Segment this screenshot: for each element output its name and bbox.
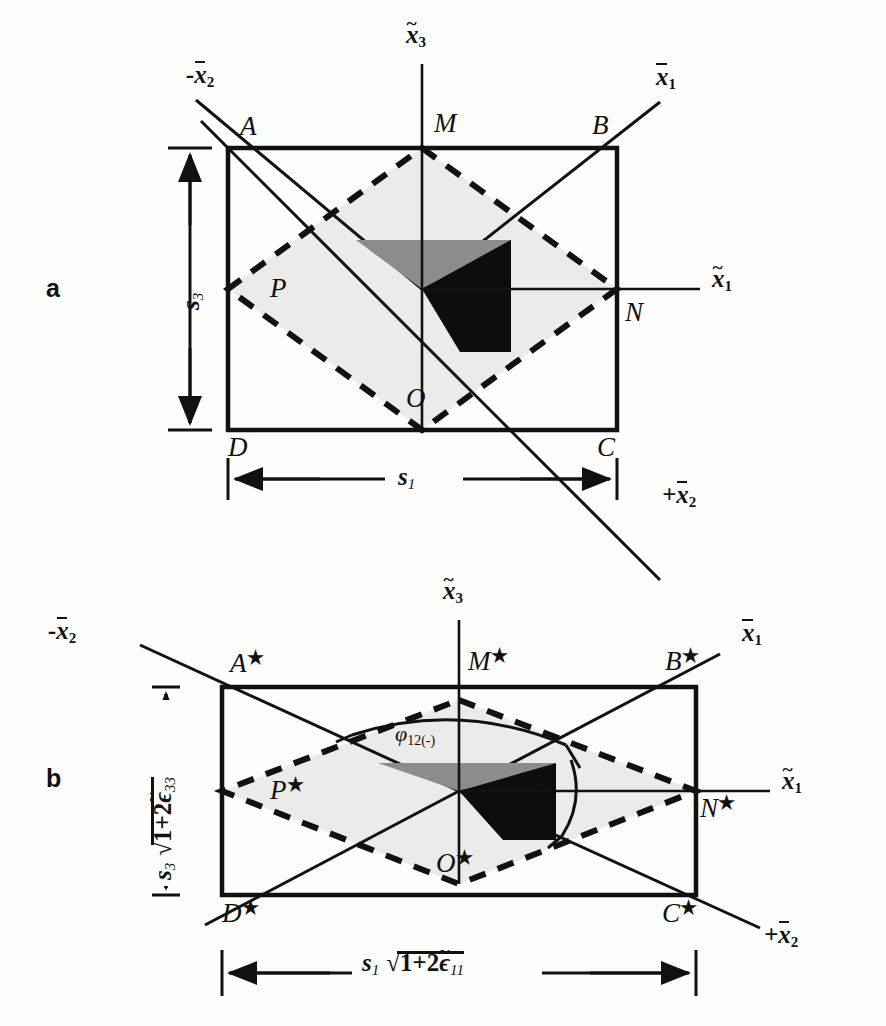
- panel-b-axis-label-pos-x2: +x2: [764, 922, 798, 950]
- panel-b-point-B-star: B★: [665, 646, 699, 675]
- panel-a-point-D: D: [228, 434, 248, 461]
- star-glyph-B: ★: [682, 645, 699, 666]
- x-base-b3: x: [742, 619, 755, 646]
- panel-a-letter: a: [46, 276, 60, 301]
- panel-a-dim-h-label-mask: [385, 462, 463, 496]
- s-base-a1: s: [177, 300, 204, 310]
- point-B-base: B: [665, 646, 682, 676]
- star-glyph-C: ★: [680, 897, 697, 918]
- sub-1-a1: 1: [669, 76, 677, 92]
- sub-2-a2: 2: [689, 494, 697, 510]
- panel-b-letter: b: [46, 766, 61, 791]
- x-base-a3: x: [656, 63, 669, 90]
- sub-2-b1: 2: [69, 630, 77, 646]
- sub-12: 12: [535, 774, 550, 788]
- panel-a-graphics: [168, 64, 700, 580]
- sub-33: 33: [162, 777, 178, 792]
- sub-3-a2: 3: [190, 293, 206, 301]
- panel-a-axis-label-neg-x2: -x2: [186, 62, 214, 90]
- panel-b-point-D-star: D★: [222, 898, 259, 927]
- panel-a-axis-label-x1-bar: x1: [656, 64, 676, 92]
- panel-a-axis-label-x1-tilde: ~x1: [712, 266, 732, 294]
- star-glyph-O: ★: [456, 847, 473, 868]
- panel-b-axis-label-neg-x2: -x2: [48, 618, 76, 646]
- s-base-b1: s: [149, 870, 176, 880]
- point-N-base: N: [700, 793, 718, 823]
- star-glyph-A: ★: [247, 647, 264, 668]
- star-glyph-N: ★: [718, 792, 735, 813]
- panel-a-point-A: A: [240, 113, 257, 140]
- panel-b-point-M-star: M★: [468, 646, 508, 675]
- point-D-base: D: [222, 898, 242, 928]
- panel-b-dim-horizontal-label: s1 √1+2~ϵ11: [362, 950, 464, 978]
- panel-a-point-O: O: [406, 385, 426, 412]
- panel-a-dim-vertical-label: s3: [178, 293, 206, 310]
- panel-b-point-O-star: O★: [436, 848, 473, 877]
- panel-a-point-P: P: [270, 275, 287, 302]
- panel-b-axis-label-x3-tilde: ~x3: [443, 578, 463, 606]
- panel-b-axis-label-x1-bar: x1: [742, 620, 762, 648]
- point-M-base: M: [468, 646, 491, 676]
- panel-a-point-B: B: [592, 112, 609, 139]
- sub-1-b1: 1: [755, 632, 763, 648]
- sub-3-b1: 3: [456, 590, 464, 606]
- s-base-b2: s: [362, 949, 372, 976]
- sub-1-b3: 1: [372, 962, 380, 978]
- point-A-base: A: [230, 648, 247, 678]
- sub-2-b2: 2: [791, 934, 799, 950]
- star-glyph-M: ★: [491, 645, 508, 666]
- plus-sign-a: +: [662, 481, 676, 508]
- panel-a-axis-label-x3-tilde: ~x3: [406, 22, 426, 50]
- phi-glyph-1: φ: [395, 721, 407, 746]
- panel-a-point-N: N: [625, 299, 643, 326]
- sub-12-minus: 12(-): [407, 733, 435, 748]
- panel-a-point-C: C: [597, 434, 615, 461]
- panel-b-point-N-star: N★: [700, 793, 735, 822]
- panel-a-dim-horizontal-label: s1: [398, 464, 415, 492]
- sub-11: 11: [450, 962, 464, 978]
- x-base-a5: x: [676, 481, 689, 508]
- x-base-b5: x: [778, 921, 791, 948]
- x-base-a1: x: [194, 61, 207, 88]
- panel-b-point-P-star: P★: [270, 775, 304, 804]
- panel-b-point-C-star: C★: [662, 898, 697, 927]
- panel-a-point-M: M: [434, 110, 457, 137]
- panel-b-axis-label-x1-tilde: ~x1: [782, 768, 802, 796]
- sub-1-a2: 1: [725, 278, 733, 294]
- panel-a-axis-label-pos-x2: +x2: [662, 482, 696, 510]
- sub-2-a1: 2: [207, 74, 215, 90]
- panel-b-point-A-star: A★: [230, 648, 264, 677]
- phi-glyph-2: φ: [523, 788, 548, 800]
- plus-sign-b: +: [764, 921, 778, 948]
- sub-1-b2: 1: [795, 780, 803, 796]
- point-C-base: C: [662, 898, 680, 928]
- s-base-a2: s: [398, 463, 408, 490]
- star-glyph-D: ★: [242, 897, 259, 918]
- sub-1-a3: 1: [408, 476, 416, 492]
- panel-b-angle-phi12-minus: φ12(-): [395, 723, 435, 748]
- point-O-base: O: [436, 848, 456, 878]
- panel-b-angle-phi12: φ12: [525, 774, 550, 800]
- sub-3-a1: 3: [419, 34, 427, 50]
- deformation-figure: a -x2 ~x3 x1 ~x1 +x2 A M B P N O D C s3 …: [0, 0, 886, 1026]
- point-P-base: P: [270, 775, 287, 805]
- star-glyph-P: ★: [287, 774, 304, 795]
- x-base-b1: x: [56, 617, 69, 644]
- panel-b-dim-vertical-label: s3 √1+2~ϵ33: [150, 777, 178, 880]
- sub-3-b2: 3: [162, 863, 178, 871]
